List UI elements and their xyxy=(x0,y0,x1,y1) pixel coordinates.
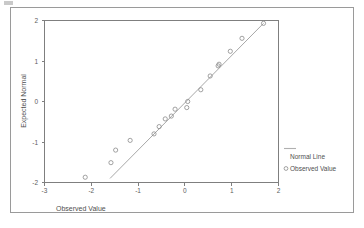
data-point xyxy=(173,107,177,111)
y-tick-label-2: 2 xyxy=(34,17,38,24)
qq-plot-figure: 2 1 0 -1 -2 -3 -2 -1 0 1 2 xyxy=(0,0,364,228)
data-point xyxy=(199,88,203,92)
normal-line-path xyxy=(110,23,264,178)
y-tick-label-1: 1 xyxy=(34,58,38,65)
chart-canvas: 2 1 0 -1 -2 -3 -2 -1 0 1 2 xyxy=(0,0,364,228)
x-axis-ticks: -3 -2 -1 0 1 2 xyxy=(42,183,281,195)
y-axis-title: Expected Normal xyxy=(20,74,28,128)
data-point xyxy=(109,161,113,165)
data-point xyxy=(83,175,87,179)
y-axis-ticks: 2 1 0 -1 -2 xyxy=(32,17,44,186)
x-tick-label-1: 1 xyxy=(230,187,234,194)
data-point xyxy=(185,105,189,109)
observed-points xyxy=(83,21,266,179)
x-tick-label-neg1: -1 xyxy=(135,187,141,194)
legend-label-normal-line: Normal Line xyxy=(290,153,325,160)
legend-label-observed-value: Observed Value xyxy=(290,165,337,172)
data-point xyxy=(114,148,118,152)
y-tick-label-neg2: -2 xyxy=(32,179,38,186)
y-tick-label-0: 0 xyxy=(34,98,38,105)
normal-line xyxy=(110,23,264,178)
chart-svg: 2 1 0 -1 -2 -3 -2 -1 0 1 2 xyxy=(0,0,364,228)
x-tick-label-neg3: -3 xyxy=(42,187,48,194)
data-point xyxy=(163,117,167,121)
y-tick-label-neg1: -1 xyxy=(32,139,38,146)
legend: Normal Line Observed Value xyxy=(284,149,337,173)
plot-axes xyxy=(45,21,279,183)
x-axis-title: Observed Value xyxy=(56,205,106,212)
data-point xyxy=(157,125,161,129)
x-tick-label-0: 0 xyxy=(183,187,187,194)
x-tick-label-neg2: -2 xyxy=(88,187,94,194)
data-point xyxy=(228,49,232,53)
circle-marker-icon xyxy=(284,167,288,171)
x-tick-label-2: 2 xyxy=(277,187,281,194)
data-point xyxy=(240,36,244,40)
data-point xyxy=(128,138,132,142)
